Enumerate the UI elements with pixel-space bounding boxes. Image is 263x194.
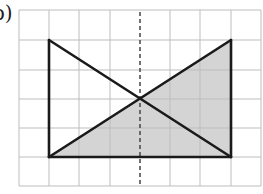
grid-diagram: [0, 0, 263, 194]
